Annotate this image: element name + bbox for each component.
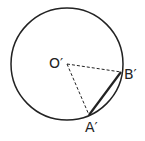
label-point-a: A′ <box>85 120 98 134</box>
label-point-b: B′ <box>124 67 137 81</box>
radius-o-a-dashed <box>67 64 89 115</box>
chord-a-b <box>89 72 121 115</box>
label-center-o: O′ <box>49 56 63 70</box>
radius-o-b-dashed <box>67 64 121 72</box>
